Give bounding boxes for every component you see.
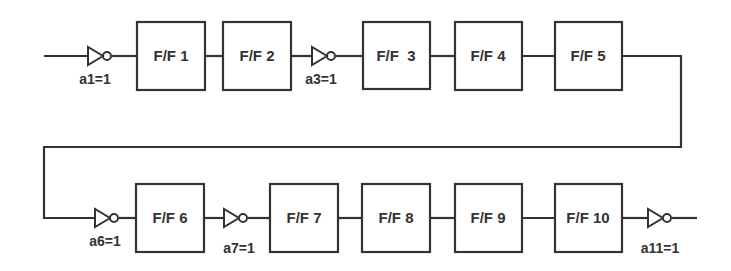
- inverter-label: a11=1: [641, 240, 680, 256]
- ff-label: F/F 1: [153, 47, 188, 64]
- inversion-bubble-icon: [110, 214, 118, 222]
- inverter-label: a6=1: [89, 233, 121, 249]
- ff-label: F/F 8: [378, 209, 413, 226]
- flip-flop-10: F/F 10: [555, 184, 622, 252]
- inversion-bubble-icon: [103, 52, 111, 60]
- flip-flop-2: F/F 2: [223, 22, 291, 90]
- ff-label: F/F 5: [570, 47, 605, 64]
- inverter-a7: a7=1: [223, 209, 255, 256]
- flip-flop-1: F/F 1: [137, 22, 205, 90]
- inverter-a6: a6=1: [89, 209, 121, 249]
- flip-flop-6: F/F 6: [136, 184, 204, 252]
- inversion-bubble-icon: [327, 52, 335, 60]
- flip-flop-5: F/F 5: [555, 22, 622, 90]
- inverter-label: a7=1: [223, 240, 255, 256]
- flip-flop-9: F/F 9: [455, 184, 522, 252]
- not-gate-icon: [95, 209, 110, 227]
- flip-flop-4: F/F 4: [455, 22, 522, 90]
- inversion-bubble-icon: [663, 214, 671, 222]
- ff-label: F/F 2: [239, 47, 274, 64]
- ff-label: F/F 9: [470, 209, 505, 226]
- ff-label: F/F 10: [566, 209, 609, 226]
- inverter-label: a3=1: [305, 71, 337, 87]
- ff-label: F/F 6: [152, 209, 187, 226]
- inverter-a3: a3=1: [305, 47, 337, 87]
- flip-flop-3: F/F 3: [363, 22, 430, 89]
- inversion-bubble-icon: [239, 214, 247, 222]
- ff-label: F/F 4: [470, 47, 506, 64]
- inverter-a1: a1=1: [79, 47, 111, 87]
- not-gate-icon: [224, 209, 239, 227]
- shift-register-diagram: F/F 1 F/F 2 F/F 3 F/F 4 F/F 5 F/F 6 F/F …: [0, 0, 731, 271]
- ff-label: F/F 7: [286, 209, 321, 226]
- flip-flop-8: F/F 8: [362, 184, 430, 252]
- not-gate-icon: [312, 47, 327, 65]
- flip-flop-7: F/F 7: [270, 184, 338, 252]
- inverter-a11: a11=1: [641, 209, 680, 256]
- ff-label: F/F 3: [376, 47, 415, 64]
- not-gate-icon: [88, 47, 103, 65]
- not-gate-icon: [648, 209, 663, 227]
- inverter-label: a1=1: [79, 71, 111, 87]
